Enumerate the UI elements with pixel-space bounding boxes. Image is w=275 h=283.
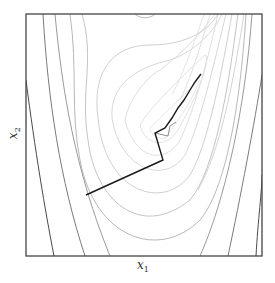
contour-lines [26,14,262,256]
contour-level-7 [70,14,246,240]
contour-plot [0,0,275,283]
x-axis-label: x1 [137,258,149,274]
secondary-path [155,122,176,136]
y-axis-label: x2 [6,121,22,145]
contour-level-4 [112,14,226,170]
